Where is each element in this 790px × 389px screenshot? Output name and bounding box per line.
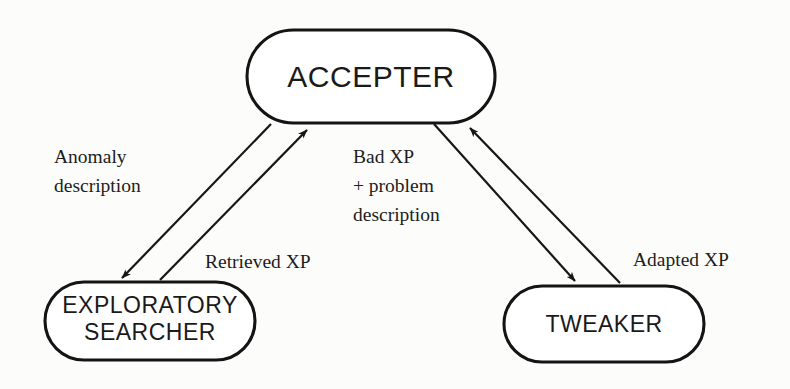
node-accepter[interactable]: ACCEPTER [247,30,495,123]
edge-label-adapted-xp: Adapted XP [633,249,729,270]
node-exploratory-searcher-label-line2: SEARCHER [84,319,216,345]
node-tweaker-label: TWEAKER [545,311,662,337]
node-tweaker[interactable]: TWEAKER [504,286,704,362]
edge-accepter-to-tweaker [434,124,575,281]
edge-label-bad-xp-line2: + problem [353,175,434,196]
edge-tweaker-to-accepter [470,128,620,283]
edge-label-anomaly-description: Anomaly description [54,146,141,196]
edge-label-retrieved-xp-line1: Retrieved XP [205,251,311,272]
edge-label-retrieved-xp: Retrieved XP [205,251,311,272]
edge-label-adapted-xp-line1: Adapted XP [633,249,729,270]
diagram-svg: ACCEPTER EXPLORATORY SEARCHER TWEAKER An… [0,0,790,389]
edge-label-bad-xp-problem-description: Bad XP + problem description [353,146,440,225]
edge-label-anomaly-description-line1: Anomaly [54,146,127,167]
edge-line-accepter-to-tweaker [434,124,575,281]
edge-label-anomaly-description-line2: description [54,175,141,196]
node-exploratory-searcher[interactable]: EXPLORATORY SEARCHER [45,282,255,360]
edge-line-tweaker-to-accepter [470,128,620,283]
edge-label-bad-xp-line1: Bad XP [353,146,414,167]
edge-label-bad-xp-line3: description [353,204,440,225]
node-accepter-label: ACCEPTER [287,60,454,93]
diagram-canvas: ACCEPTER EXPLORATORY SEARCHER TWEAKER An… [0,0,790,389]
node-exploratory-searcher-label-line1: EXPLORATORY [62,292,238,318]
